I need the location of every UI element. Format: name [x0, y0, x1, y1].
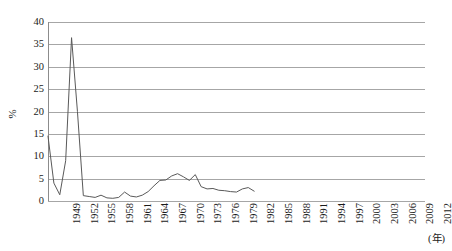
data-series-layer — [48, 22, 425, 201]
x-tick-label-1976: 1976 — [230, 203, 242, 249]
y-tick-label-20: 20 — [34, 107, 45, 117]
x-tick-label-1949: 1949 — [71, 203, 83, 249]
x-tick-label-2006: 2006 — [407, 203, 419, 249]
y-axis-title: % — [2, 104, 22, 124]
x-tick-label-2003: 2003 — [389, 203, 401, 249]
x-tick-label-1988: 1988 — [301, 203, 313, 249]
x-tick-label-1964: 1964 — [159, 203, 171, 249]
y-tick-label-15: 15 — [34, 129, 45, 139]
x-tick-label-1961: 1961 — [142, 203, 154, 249]
x-tick-label-1967: 1967 — [177, 203, 189, 249]
x-axis-tick-labels: 1949195219551958196119641967197019731976… — [48, 203, 452, 251]
y-tick-label-10: 10 — [34, 151, 45, 161]
x-tick-label-1973: 1973 — [212, 203, 224, 249]
x-tick-label-1970: 1970 — [195, 203, 207, 249]
gridline-0 — [48, 201, 425, 202]
x-tick-label-1952: 1952 — [89, 203, 101, 249]
y-tick-label-0: 0 — [39, 196, 44, 206]
y-tick-label-25: 25 — [34, 84, 45, 94]
x-tick-label-1982: 1982 — [265, 203, 277, 249]
plot-area — [48, 22, 425, 201]
x-tick-label-1955: 1955 — [106, 203, 118, 249]
y-tick-label-40: 40 — [34, 17, 45, 27]
y-tick-label-35: 35 — [34, 39, 45, 49]
x-tick-label-1958: 1958 — [124, 203, 136, 249]
x-tick-label-2000: 2000 — [371, 203, 383, 249]
x-tick-label-1994: 1994 — [336, 203, 348, 249]
x-tick-label-1991: 1991 — [318, 203, 330, 249]
x-tick-label-1997: 1997 — [354, 203, 366, 249]
y-tick-label-30: 30 — [34, 62, 45, 72]
x-axis-unit-label: (年) — [428, 233, 445, 245]
x-tick-label-1979: 1979 — [248, 203, 260, 249]
y-tick-label-5: 5 — [39, 174, 44, 184]
line-chart: % 0510152025303540 194919521955195819611… — [0, 0, 452, 251]
y-axis-tick-labels: 0510152025303540 — [22, 0, 46, 251]
x-tick-label-1985: 1985 — [283, 203, 295, 249]
series-1-line — [48, 22, 425, 201]
